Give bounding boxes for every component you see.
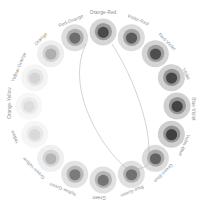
swatch-inner-core	[98, 175, 109, 186]
color-swatch[interactable]	[61, 24, 88, 51]
wheel-label-blue-violet: Blue-Violet	[191, 97, 196, 121]
swatch-inner-core	[150, 48, 161, 59]
color-swatch[interactable]	[90, 19, 117, 46]
swatch-inner-core	[166, 129, 177, 140]
color-swatch[interactable]	[164, 93, 191, 120]
color-swatch[interactable]	[21, 121, 48, 148]
swatch-inner-core	[45, 153, 56, 164]
complement-arc-left	[80, 44, 126, 168]
swatch-inner-core	[126, 169, 137, 180]
color-wheel-svg: Orange-RedViolet-RedRed-VioletVioletBlue…	[0, 0, 206, 211]
color-swatch[interactable]	[37, 40, 64, 67]
swatch-inner-core	[45, 48, 56, 59]
color-wheel-figure: Orange-RedViolet-RedRed-VioletVioletBlue…	[0, 0, 206, 211]
color-swatch[interactable]	[90, 167, 117, 194]
color-swatch[interactable]	[118, 24, 145, 51]
color-swatch[interactable]	[142, 145, 169, 172]
swatch-inner-core	[126, 32, 137, 43]
color-swatch[interactable]	[158, 121, 185, 148]
swatch-inner-core	[172, 101, 183, 112]
color-swatch[interactable]	[16, 93, 43, 120]
wheel-label-orange-yellow: Orange-Yellow	[7, 87, 12, 119]
swatch-inner-core	[29, 72, 40, 83]
wheel-label-orange-red: Orange-Red	[90, 10, 117, 15]
complement-arc-layer	[80, 44, 150, 169]
swatch-inner-core	[29, 129, 40, 140]
wheel-label-yellow: Yellow	[10, 129, 20, 144]
swatch-layer	[16, 19, 191, 194]
swatch-inner-core	[24, 101, 35, 112]
swatch-inner-core	[166, 72, 177, 83]
color-swatch[interactable]	[118, 161, 145, 188]
swatch-inner-core	[69, 169, 80, 180]
color-swatch[interactable]	[21, 64, 48, 91]
color-swatch[interactable]	[142, 40, 169, 67]
color-swatch[interactable]	[37, 145, 64, 172]
complement-arc-right	[112, 44, 149, 164]
color-swatch[interactable]	[158, 64, 185, 91]
color-swatch[interactable]	[61, 161, 88, 188]
swatch-inner-core	[98, 27, 109, 38]
swatch-inner-core	[150, 153, 161, 164]
wheel-label-green: Green	[92, 195, 106, 200]
swatch-inner-core	[69, 32, 80, 43]
